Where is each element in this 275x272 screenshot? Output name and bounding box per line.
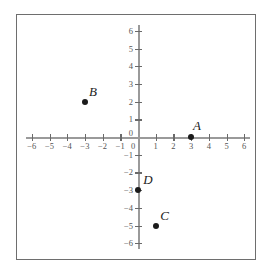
y-tick-mark: [135, 84, 142, 85]
y-tick-label: −4: [119, 204, 133, 213]
x-tick-mark: [227, 134, 228, 141]
x-tick-mark: [209, 134, 210, 141]
y-tick-mark: [135, 119, 142, 120]
y-tick-label: 2: [119, 97, 133, 106]
x-tick-label: 5: [224, 142, 228, 151]
y-tick-mark: [135, 208, 142, 209]
y-tick-mark: [135, 155, 142, 156]
x-tick-mark: [244, 134, 245, 141]
y-tick-label: 4: [119, 62, 133, 71]
x-tick-mark: [103, 134, 104, 141]
y-tick-mark: [135, 31, 142, 32]
coordinate-plane-figure: −6−5−4−3−2−10123456−6−5−4−3−2−10123456 A…: [0, 0, 275, 272]
x-tick-mark: [67, 134, 68, 141]
x-tick-label: 3: [189, 142, 193, 151]
plot-frame: −6−5−4−3−2−10123456−6−5−4−3−2−10123456 A…: [16, 14, 256, 260]
y-tick-mark: [135, 226, 142, 227]
x-tick-mark: [32, 134, 33, 141]
x-tick-label: 4: [207, 142, 211, 151]
y-tick-label: 1: [119, 115, 133, 124]
y-tick-mark: [135, 102, 142, 103]
plotted-point-a[interactable]: [188, 134, 194, 140]
plotted-point-d[interactable]: [135, 187, 141, 193]
origin-tick-label: 0: [119, 129, 133, 138]
x-tick-mark: [156, 134, 157, 141]
y-tick-label: −5: [119, 221, 133, 230]
y-tick-label: 3: [119, 80, 133, 89]
y-tick-label: −3: [119, 186, 133, 195]
plotted-point-b[interactable]: [82, 99, 88, 105]
x-tick-mark: [173, 134, 174, 141]
point-label-a: A: [193, 119, 201, 132]
y-tick-mark: [135, 243, 142, 244]
x-tick-label: −3: [80, 142, 89, 151]
point-label-d: D: [143, 173, 152, 186]
x-tick-mark: [50, 134, 51, 141]
x-tick-label: −4: [63, 142, 72, 151]
y-tick-label: −2: [119, 168, 133, 177]
x-tick-label: −2: [98, 142, 107, 151]
x-tick-label: −5: [45, 142, 54, 151]
point-label-b: B: [89, 84, 97, 97]
y-tick-label: −1: [119, 150, 133, 159]
y-tick-mark: [135, 172, 142, 173]
x-tick-label: −6: [27, 142, 36, 151]
y-tick-mark: [135, 49, 142, 50]
x-tick-label: 1: [154, 142, 158, 151]
y-axis: [138, 25, 140, 250]
y-tick-label: −6: [119, 239, 133, 248]
y-tick-label: 5: [119, 44, 133, 53]
point-label-c: C: [160, 208, 169, 221]
y-tick-label: 6: [119, 27, 133, 36]
x-tick-label: 6: [242, 142, 246, 151]
x-tick-label: 2: [171, 142, 175, 151]
y-tick-mark: [135, 66, 142, 67]
plotted-point-c[interactable]: [153, 223, 159, 229]
x-tick-mark: [85, 134, 86, 141]
